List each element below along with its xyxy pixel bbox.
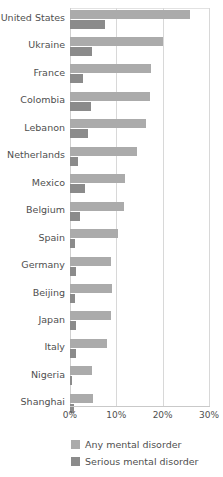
bar-row: Japan bbox=[70, 310, 209, 337]
chart-legend: Any mental disorderSerious mental disord… bbox=[71, 437, 221, 471]
x-axis: 0%10%20%30% bbox=[70, 409, 209, 425]
legend-swatch-icon bbox=[71, 457, 80, 466]
bar-any bbox=[70, 394, 93, 403]
legend-label: Any mental disorder bbox=[85, 439, 181, 450]
category-label: Nigeria bbox=[31, 369, 65, 380]
category-label: Belgium bbox=[26, 204, 65, 215]
x-tick-label: 30% bbox=[199, 409, 219, 421]
bar-any bbox=[70, 366, 92, 375]
horizontal-bar-chart: United StatesUkraineFranceColombiaLebano… bbox=[0, 0, 223, 477]
bar-row: Nigeria bbox=[70, 365, 209, 392]
bar-serious bbox=[70, 321, 76, 330]
legend-item: Serious mental disorder bbox=[71, 454, 221, 469]
bar-row: Mexico bbox=[70, 173, 209, 200]
x-tick-label: 10% bbox=[106, 409, 126, 421]
gridline-30% bbox=[209, 8, 210, 406]
bar-serious bbox=[70, 349, 76, 358]
legend-swatch-icon bbox=[71, 440, 80, 449]
bar-serious bbox=[70, 102, 91, 111]
bar-any bbox=[70, 37, 163, 46]
bar-any bbox=[70, 174, 125, 183]
category-label: Lebanon bbox=[24, 122, 65, 133]
bar-serious bbox=[70, 20, 105, 29]
category-label: Japan bbox=[39, 314, 66, 325]
bar-row: Lebanon bbox=[70, 118, 209, 145]
bar-any bbox=[70, 257, 111, 266]
x-tick-label: 0% bbox=[63, 409, 77, 421]
category-label: Colombia bbox=[20, 94, 65, 105]
category-label: Netherlands bbox=[7, 149, 65, 160]
bar-any bbox=[70, 339, 107, 348]
bar-any bbox=[70, 284, 112, 293]
plot-area: United StatesUkraineFranceColombiaLebano… bbox=[70, 8, 209, 406]
bar-serious bbox=[70, 74, 83, 83]
bar-row: Spain bbox=[70, 228, 209, 255]
legend-label: Serious mental disorder bbox=[85, 456, 199, 467]
bar-serious bbox=[70, 47, 92, 56]
bar-serious bbox=[70, 294, 75, 303]
bar-serious bbox=[70, 376, 72, 385]
bar-any bbox=[70, 64, 151, 73]
bar-serious bbox=[70, 184, 85, 193]
category-label: Italy bbox=[44, 341, 65, 352]
bar-row: Colombia bbox=[70, 90, 209, 117]
bar-row: Italy bbox=[70, 337, 209, 364]
category-label: United States bbox=[1, 12, 65, 23]
bar-any bbox=[70, 119, 146, 128]
bar-serious bbox=[70, 267, 76, 276]
bar-row: Belgium bbox=[70, 200, 209, 227]
category-label: Germany bbox=[21, 259, 65, 270]
bar-any bbox=[70, 229, 118, 238]
category-label: France bbox=[33, 67, 65, 78]
plot-baseline-rule bbox=[70, 406, 210, 407]
bar-row: United States bbox=[70, 8, 209, 35]
bar-any bbox=[70, 202, 124, 211]
category-label: Beijing bbox=[33, 287, 65, 298]
bar-serious bbox=[70, 157, 78, 166]
bar-any bbox=[70, 10, 190, 19]
bar-row: Beijing bbox=[70, 283, 209, 310]
bar-serious bbox=[70, 212, 80, 221]
bar-serious bbox=[70, 129, 88, 138]
category-label: Ukraine bbox=[28, 39, 65, 50]
category-label: Shanghai bbox=[21, 396, 65, 407]
bar-any bbox=[70, 92, 150, 101]
category-label: Spain bbox=[38, 232, 65, 243]
bar-row: Germany bbox=[70, 255, 209, 282]
bar-any bbox=[70, 147, 137, 156]
legend-item: Any mental disorder bbox=[71, 437, 221, 452]
bar-row: Ukraine bbox=[70, 35, 209, 62]
bar-any bbox=[70, 311, 111, 320]
category-label: Mexico bbox=[32, 177, 65, 188]
bar-row: France bbox=[70, 63, 209, 90]
bar-serious bbox=[70, 239, 75, 248]
x-tick-label: 20% bbox=[153, 409, 173, 421]
bar-row: Netherlands bbox=[70, 145, 209, 172]
